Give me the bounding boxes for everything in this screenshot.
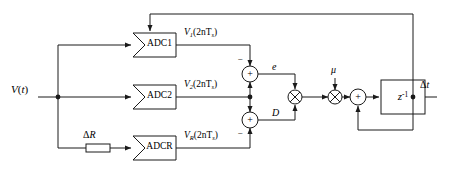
sum-bottom-plus-sign: + bbox=[244, 115, 256, 125]
delay-block-label: z-1 bbox=[381, 91, 425, 102]
sum-top-plus-sign: + bbox=[244, 69, 256, 79]
step-size-label: μ bbox=[331, 65, 336, 75]
error-signal-label: e bbox=[272, 62, 276, 72]
signal-label-v2: V2(2nTs) bbox=[184, 80, 217, 90]
sum-top-minus-sign: − bbox=[236, 55, 244, 64]
diagram-svg bbox=[0, 0, 452, 175]
accumulator-plus-sign: + bbox=[352, 92, 364, 102]
deltar-block-shape bbox=[86, 144, 110, 152]
block-diagram-canvas: V(t) ADC1 ADC2 ADCR ΔR V1(2nTs) V2(2nTs)… bbox=[0, 0, 452, 175]
signal-label-v1: V1(2nTs) bbox=[184, 28, 217, 38]
junction-input-bus bbox=[56, 95, 61, 100]
input-signal-label: V(t) bbox=[11, 84, 28, 95]
direction-signal-label: D bbox=[272, 108, 279, 118]
signal-label-vr: VR(2nTs) bbox=[184, 131, 218, 141]
adc2-block-label: ADC2 bbox=[143, 91, 176, 101]
adcr-block-label: ADCR bbox=[143, 142, 176, 152]
adc1-block-label: ADC1 bbox=[143, 39, 176, 49]
output-signal-label: Δt bbox=[420, 80, 429, 90]
delta-r-label: ΔR bbox=[83, 130, 96, 140]
sum-bottom-minus-sign: − bbox=[236, 129, 244, 138]
junction-adc2-bus bbox=[248, 95, 253, 100]
